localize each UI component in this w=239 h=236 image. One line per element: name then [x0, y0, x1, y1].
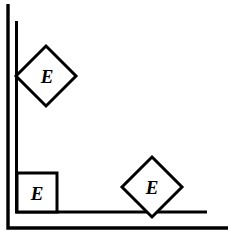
triangle-diagram: E E E	[0, 0, 239, 236]
figure-canvas: E E E	[0, 0, 239, 236]
angle-marker-bottom-right-label: E	[145, 177, 159, 198]
angle-marker-bottom-left: E	[17, 173, 57, 212]
angle-marker-bottom-left-label: E	[30, 183, 44, 204]
angle-marker-top-label: E	[40, 66, 54, 87]
